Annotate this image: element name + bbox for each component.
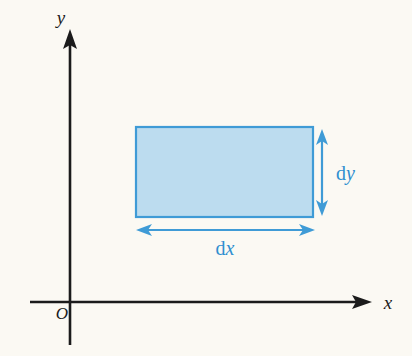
- dy-label-variable: y: [344, 162, 355, 185]
- dy-dimension-label: dy: [336, 162, 355, 185]
- dx-label-variable: x: [225, 237, 235, 259]
- dx-dimension-label: dx: [216, 237, 235, 259]
- diagram-canvas: y x O dy dx: [0, 0, 412, 356]
- origin-label: O: [56, 304, 68, 323]
- differential-area-element-diagram: y x O dy dx: [0, 0, 412, 356]
- area-element-rectangle: [136, 127, 313, 217]
- dx-label-prefix: d: [216, 237, 226, 259]
- y-axis-label: y: [55, 7, 66, 28]
- x-axis-label: x: [383, 292, 393, 313]
- dy-label-prefix: d: [336, 162, 346, 184]
